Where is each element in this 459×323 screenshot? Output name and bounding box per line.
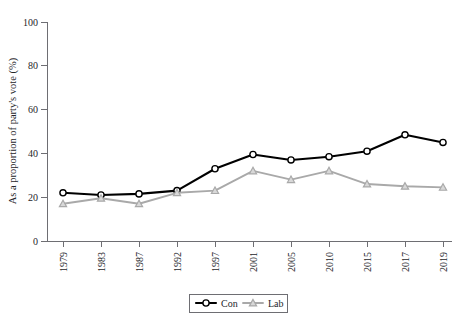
data-point-con-2010 bbox=[326, 154, 332, 160]
legend-label-con: Con bbox=[221, 298, 238, 309]
data-point-con-2005 bbox=[288, 157, 294, 163]
y-axis-title: As a proportion of party's vote (%) bbox=[7, 57, 19, 204]
line-chart: As a proportion of party's vote (%) 0204… bbox=[0, 0, 459, 323]
x-tick-label: 1987 bbox=[134, 252, 145, 272]
data-point-con-2019 bbox=[440, 139, 446, 145]
chart-background bbox=[0, 0, 459, 323]
data-point-con-1997 bbox=[212, 166, 218, 172]
data-point-con-1979 bbox=[60, 190, 66, 196]
y-tick-label: 40 bbox=[28, 148, 38, 159]
y-tick-label: 80 bbox=[28, 60, 38, 71]
y-tick-label: 100 bbox=[23, 17, 38, 28]
x-tick-label: 2017 bbox=[400, 252, 411, 272]
y-tick-label: 0 bbox=[33, 236, 38, 247]
x-tick-label: 1983 bbox=[96, 252, 107, 272]
x-tick-label: 2015 bbox=[362, 252, 373, 272]
x-tick-label: 2010 bbox=[324, 252, 335, 272]
x-tick-label: 2005 bbox=[286, 252, 297, 272]
x-tick-label: 1979 bbox=[58, 252, 69, 272]
data-point-con-1987 bbox=[136, 191, 142, 197]
data-point-con-2015 bbox=[364, 148, 370, 154]
data-point-con-2017 bbox=[402, 132, 408, 138]
x-tick-label: 2001 bbox=[248, 252, 259, 272]
y-tick-label: 20 bbox=[28, 192, 38, 203]
chart-legend: ConLab bbox=[189, 294, 287, 312]
legend-marker-con bbox=[203, 300, 209, 306]
data-point-con-2001 bbox=[250, 151, 256, 157]
x-tick-label: 2019 bbox=[438, 252, 449, 272]
legend-label-lab: Lab bbox=[268, 298, 284, 309]
x-tick-label: 1997 bbox=[210, 252, 221, 272]
x-tick-label: 1992 bbox=[172, 252, 183, 272]
y-tick-label: 60 bbox=[28, 104, 38, 115]
chart-container: As a proportion of party's vote (%) 0204… bbox=[0, 0, 459, 323]
